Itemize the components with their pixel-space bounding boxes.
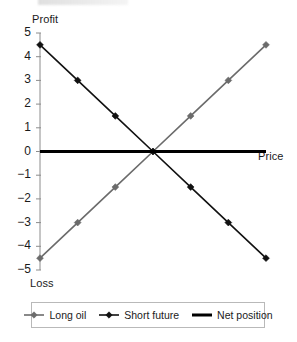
y-tick-label: 4 <box>9 49 31 63</box>
y-tick-label: −3 <box>9 215 31 229</box>
y-tick-label: 3 <box>9 72 31 86</box>
legend-label: Long oil <box>49 309 86 321</box>
y-tick-label: 2 <box>9 96 31 110</box>
y-tick-label: 0 <box>9 144 31 158</box>
y-tick-label: −2 <box>9 191 31 205</box>
chart-legend: Long oilShort futureNet position <box>31 302 265 328</box>
legend-entry-net-position[interactable]: Net position <box>191 309 272 321</box>
legend-label: Short future <box>124 309 179 321</box>
legend-entry-short-future[interactable]: Short future <box>98 309 179 321</box>
y-tick-label: 5 <box>9 25 31 39</box>
legend-marker-icon <box>23 309 45 321</box>
legend-label: Net position <box>217 309 272 321</box>
y-tick-label: −4 <box>9 238 31 252</box>
chart-figure: Profit Loss Price 543210−1−2−3−4−5 Long … <box>0 0 297 342</box>
legend-entry-long-oil[interactable]: Long oil <box>23 309 86 321</box>
y-tick-label: 1 <box>9 120 31 134</box>
series-lines <box>37 41 270 261</box>
y-tick-label: −1 <box>9 167 31 181</box>
plot-area <box>0 0 297 342</box>
y-tick-label: −5 <box>9 262 31 276</box>
legend-line-icon <box>191 309 213 321</box>
legend-marker-icon <box>98 309 120 321</box>
